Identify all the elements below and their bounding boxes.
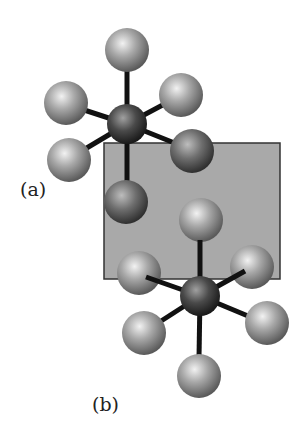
- ligand-atom: [179, 198, 223, 242]
- ligand-atom: [245, 301, 289, 345]
- central-atom: [180, 276, 220, 316]
- label-a: (a): [20, 178, 46, 200]
- ligand-atom: [177, 354, 221, 398]
- ligand-atom: [47, 138, 91, 182]
- ligand-atom: [159, 73, 203, 117]
- octahedral-molecules-diagram: [0, 0, 308, 435]
- ligand-atom: [230, 245, 274, 289]
- ligand-atom: [117, 251, 161, 295]
- ligand-atom: [122, 311, 166, 355]
- label-b: (b): [92, 393, 119, 415]
- central-atom: [107, 104, 147, 144]
- ligand-atom: [170, 129, 214, 173]
- ligand-atom: [104, 180, 148, 224]
- ligand-atom: [105, 28, 149, 72]
- ligand-atom: [44, 81, 88, 125]
